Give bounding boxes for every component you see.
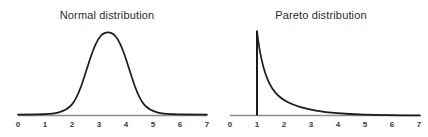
pareto-distribution-plot: [214, 0, 428, 137]
x-tick-label: 3: [304, 119, 318, 130]
x-tick-label: 5: [358, 119, 372, 130]
pareto-curve: [257, 31, 420, 115]
x-tick-label: 3: [92, 119, 106, 130]
x-tick-label: 0: [11, 119, 25, 130]
x-tick-label: 2: [65, 119, 79, 130]
chart-panel-normal: Normal distribution 0 1 2 3 4 5 6 7: [0, 0, 214, 137]
x-tick-label: 4: [119, 119, 133, 130]
normal-curve: [18, 32, 207, 114]
x-tick-label: 6: [385, 119, 399, 130]
normal-distribution-plot: [0, 0, 214, 137]
distribution-comparison-figure: Normal distribution 0 1 2 3 4 5 6 7 Pare…: [0, 0, 428, 137]
x-tick-label: 4: [331, 119, 345, 130]
x-tick-label: 7: [412, 119, 426, 130]
x-tick-label: 6: [173, 119, 187, 130]
chart-panel-pareto: Pareto distribution 0 1 2 3 4 5 6 7: [214, 0, 428, 137]
x-tick-labels-normal: 0 1 2 3 4 5 6 7: [0, 119, 214, 131]
x-tick-label: 5: [146, 119, 160, 130]
x-tick-label: 7: [200, 119, 214, 130]
x-tick-label: 0: [223, 119, 237, 130]
x-tick-labels-pareto: 0 1 2 3 4 5 6 7: [214, 119, 428, 131]
x-tick-label: 1: [250, 119, 264, 130]
x-tick-label: 2: [277, 119, 291, 130]
x-tick-label: 1: [38, 119, 52, 130]
